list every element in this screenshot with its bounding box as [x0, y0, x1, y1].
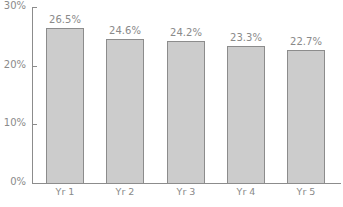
bar-chart: 0%10%20%30% 26.5%Yr 124.6%Yr 224.2%Yr 32…	[0, 0, 343, 207]
y-tick-label: 20%	[0, 59, 26, 70]
x-category-label: Yr 2	[95, 186, 155, 197]
y-tick-label: 10%	[0, 117, 26, 128]
bar	[227, 46, 265, 183]
bar-value-label: 23.3%	[216, 32, 276, 43]
bar-value-label: 26.5%	[35, 14, 95, 25]
bar	[46, 28, 84, 183]
x-category-label: Yr 3	[156, 186, 216, 197]
bar-value-label: 22.7%	[276, 36, 336, 47]
y-axis	[32, 7, 33, 184]
y-tick	[32, 124, 37, 125]
x-category-label: Yr 4	[216, 186, 276, 197]
bar-value-label: 24.6%	[95, 25, 155, 36]
y-tick	[32, 7, 37, 8]
y-tick-label: 0%	[0, 176, 26, 187]
bar	[106, 39, 144, 183]
y-tick-label: 30%	[0, 0, 26, 11]
x-category-label: Yr 1	[35, 186, 95, 197]
y-tick	[32, 183, 37, 184]
bar	[167, 41, 205, 183]
x-category-label: Yr 5	[276, 186, 336, 197]
bar-value-label: 24.2%	[156, 27, 216, 38]
x-axis	[32, 183, 341, 184]
bar	[287, 50, 325, 183]
y-tick	[32, 66, 37, 67]
